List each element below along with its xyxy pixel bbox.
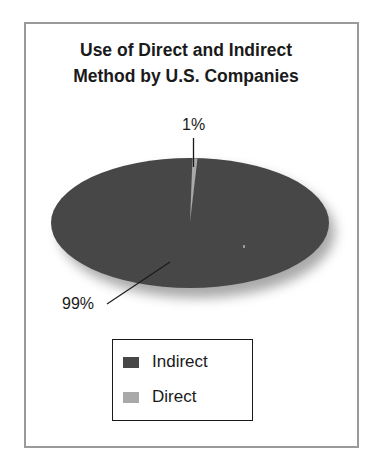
data-label-direct: 1%	[182, 116, 205, 134]
legend: Indirect Direct	[112, 339, 253, 421]
legend-label-direct: Direct	[152, 387, 196, 407]
pie-slice-indirect	[51, 158, 329, 288]
legend-swatch-indirect	[123, 357, 139, 368]
legend-label-indirect: Indirect	[152, 352, 208, 372]
pie-speck	[243, 245, 245, 248]
legend-swatch-direct	[123, 392, 139, 403]
data-label-indirect: 99%	[62, 295, 94, 313]
legend-item-indirect: Indirect	[113, 352, 208, 372]
legend-item-direct: Direct	[113, 387, 196, 407]
